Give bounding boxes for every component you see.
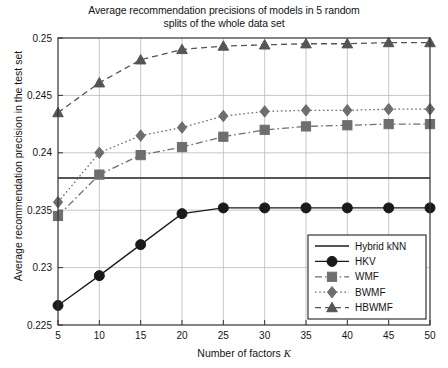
series-line-wmf [58, 124, 430, 216]
x-tick-label: 35 [300, 330, 312, 341]
series-marker-wmf [301, 122, 310, 131]
x-tick-label: 50 [424, 330, 436, 341]
legend-sample-marker-hkv [327, 256, 337, 266]
series-marker-wmf [260, 125, 269, 134]
x-tick-label: 5 [55, 330, 61, 341]
series-marker-bwmf [260, 106, 269, 118]
series-marker-hbwmf [94, 77, 105, 86]
series-line-hbwmf [58, 43, 430, 113]
series-line-bwmf [58, 109, 430, 202]
series-marker-bwmf [219, 110, 228, 122]
series-marker-wmf [343, 121, 352, 130]
y-tick-label: 0.24 [33, 147, 53, 158]
series-marker-bwmf [343, 105, 352, 117]
series-marker-wmf [219, 132, 228, 141]
series-marker-hkv [384, 203, 394, 213]
series-marker-bwmf [384, 103, 393, 115]
x-tick-label: 10 [94, 330, 106, 341]
series-marker-hbwmf [259, 40, 270, 49]
legend-label-wmf: WMF [355, 271, 379, 282]
series-marker-hkv [136, 240, 146, 250]
chart-figure: Average recommendation precisions of mod… [0, 0, 448, 368]
legend-label-hybrid-knn: Hybrid kNN [355, 241, 406, 252]
series-marker-hkv [94, 271, 104, 281]
series-marker-bwmf [301, 105, 310, 117]
x-tick-label: 40 [342, 330, 354, 341]
series-marker-hkv [301, 203, 311, 213]
series-marker-wmf [177, 142, 186, 151]
series-marker-wmf [136, 151, 145, 160]
legend-label-hkv: HKV [355, 256, 376, 267]
series-marker-bwmf [136, 130, 145, 142]
y-tick-label: 0.23 [33, 262, 53, 273]
y-tick-label: 0.235 [27, 205, 52, 216]
series-marker-hbwmf [301, 38, 312, 47]
legend-sample-marker-wmf [327, 272, 336, 281]
series-marker-hkv [218, 203, 228, 213]
series-marker-bwmf [177, 122, 186, 134]
series-marker-hkv [177, 209, 187, 219]
y-tick-label: 0.245 [27, 90, 52, 101]
legend-label-bwmf: BWMF [355, 287, 386, 298]
x-tick-label: 25 [218, 330, 230, 341]
plot-area: 0.2250.230.2350.240.2450.255101520253035… [0, 0, 448, 368]
x-tick-label: 45 [383, 330, 395, 341]
x-tick-label: 30 [259, 330, 271, 341]
series-marker-hkv [260, 203, 270, 213]
x-tick-label: 20 [176, 330, 188, 341]
y-tick-label: 0.25 [33, 33, 53, 44]
legend-label-hbwmf: HBWMF [355, 302, 393, 313]
series-marker-hkv [342, 203, 352, 213]
series-marker-wmf [95, 170, 104, 179]
y-tick-label: 0.225 [27, 320, 52, 331]
x-tick-label: 15 [135, 330, 147, 341]
series-marker-hbwmf [218, 41, 229, 50]
series-marker-wmf [384, 120, 393, 129]
